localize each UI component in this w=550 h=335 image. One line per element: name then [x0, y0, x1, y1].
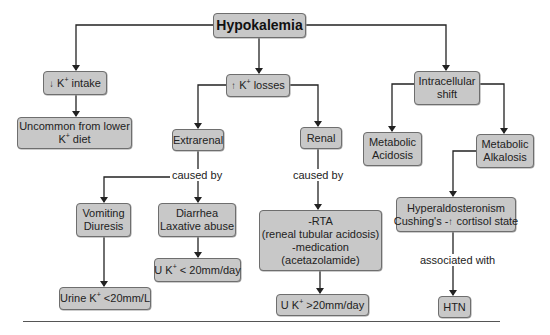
- down-arrow-icon: ↓: [50, 77, 54, 90]
- node-extrarenal: Extrarenal: [172, 129, 224, 151]
- connector-lines: [0, 0, 550, 335]
- node-decreased-k-intake: ↓K+ intake: [43, 71, 107, 95]
- node-uk-less-20-day: U K+ < 20mm/day: [154, 258, 241, 282]
- edge-label-caused-by-extrarenal: caused by: [170, 169, 224, 181]
- bottom-divider: [23, 321, 500, 322]
- node-vomiting-diuresis: Vomiting Diuresis: [76, 203, 131, 237]
- node-uncommon-lower-diet: Uncommon from lower K+ diet: [17, 117, 132, 149]
- edge-label-caused-by-renal: caused by: [291, 169, 345, 181]
- node-htn: HTN: [438, 296, 471, 318]
- node-metabolic-alkalosis: Metabolic Alkalosis: [476, 134, 534, 168]
- node-diarrhea-laxative: Diarrhea Laxative abuse: [158, 203, 236, 237]
- node-intracellular-shift: Intracellular shift: [414, 71, 480, 105]
- node-metabolic-acidosis: Metabolic Acidosis: [363, 132, 422, 166]
- up-arrow-icon: ↑: [449, 215, 453, 228]
- node-hypokalemia-label: Hypokalemia: [216, 19, 302, 32]
- node-hypokalemia: Hypokalemia: [213, 13, 306, 38]
- node-hyperaldosteronism: Hyperaldosteronism Cushing's -↑ cortisol…: [396, 197, 516, 232]
- node-urine-k-less-20-l: Urine K+ <20mm/L: [59, 287, 151, 310]
- edge-label-associated-with: associated with: [418, 254, 497, 266]
- node-increased-k-losses: ↑K+ losses: [226, 74, 290, 97]
- node-rta-medication: -RTA (reneal tubular acidosis) -medicati…: [259, 210, 382, 271]
- node-renal: Renal: [300, 127, 342, 149]
- node-uk-greater-20-day: U K+ >20mm/day: [276, 294, 369, 316]
- up-arrow-icon: ↑: [232, 79, 236, 92]
